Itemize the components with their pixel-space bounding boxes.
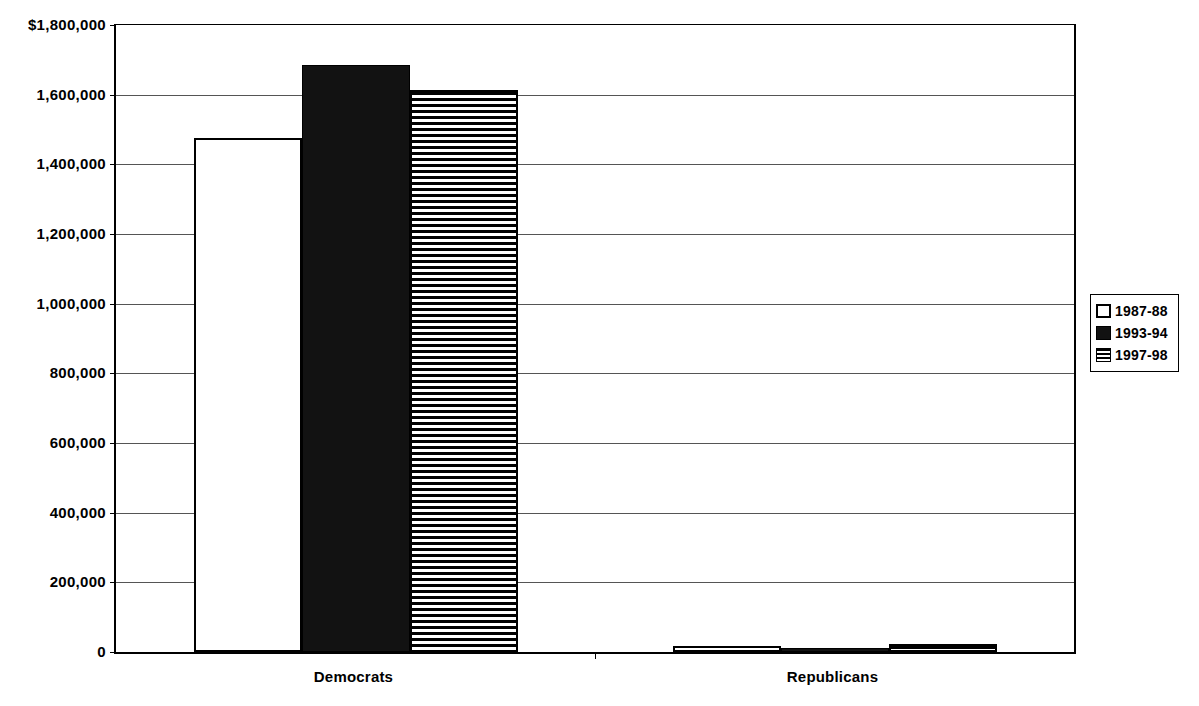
bar-republicans-1993-94 — [781, 648, 889, 652]
legend-entry: 1993-94 — [1096, 322, 1173, 344]
legend-swatch-open-icon — [1096, 304, 1111, 318]
bar-democrats-1993-94 — [302, 65, 410, 652]
bar-republicans-1997-98 — [889, 644, 997, 652]
legend-label: 1997-98 — [1115, 348, 1168, 362]
legend-swatch-solid-icon — [1096, 326, 1111, 340]
legend-entry: 1987-88 — [1096, 300, 1173, 322]
bar-chart: 0200,000400,000600,000800,0001,000,0001,… — [0, 0, 1199, 706]
y-axis-tick-label: 800,000 — [0, 365, 106, 380]
legend-label: 1987-88 — [1115, 304, 1168, 318]
x-axis-category-label: Democrats — [314, 668, 393, 685]
y-axis-tick-mark — [110, 652, 116, 653]
legend-swatch-striped-icon — [1096, 348, 1111, 362]
chart-legend: 1987-881993-941997-98 — [1090, 294, 1179, 372]
bar-democrats-1997-98 — [410, 90, 518, 652]
y-axis-tick-label: 200,000 — [0, 574, 106, 589]
y-axis-tick-label: 400,000 — [0, 504, 106, 519]
plot-area — [114, 24, 1076, 654]
y-axis-tick-label: 1,000,000 — [0, 295, 106, 310]
legend-entry: 1997-98 — [1096, 344, 1173, 366]
y-axis-tick-label: 1,400,000 — [0, 156, 106, 171]
y-axis-tick-label: $1,800,000 — [0, 17, 106, 32]
category-separator-tick — [595, 652, 596, 659]
bars-layer — [116, 25, 1074, 652]
bar-democrats-1987-88 — [194, 138, 302, 652]
y-axis-tick-label: 1,600,000 — [0, 86, 106, 101]
y-axis-tick-label: 600,000 — [0, 435, 106, 450]
x-axis-category-label: Republicans — [787, 668, 878, 685]
x-axis-labels: DemocratsRepublicans — [114, 668, 1072, 698]
y-axis-tick-label: 0 — [0, 644, 106, 659]
legend-label: 1993-94 — [1115, 326, 1168, 340]
y-axis-labels: 0200,000400,000600,000800,0001,000,0001,… — [0, 0, 106, 706]
y-axis-tick-label: 1,200,000 — [0, 226, 106, 241]
bar-republicans-1987-88 — [673, 646, 781, 652]
